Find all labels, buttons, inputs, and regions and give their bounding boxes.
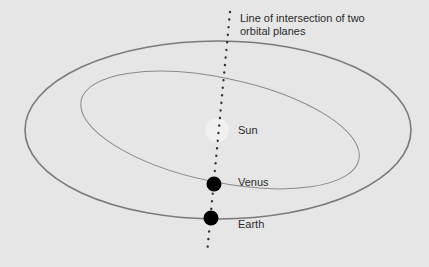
- caption: Line of intersection of two orbital plan…: [240, 12, 365, 38]
- earth-label: Earth: [238, 218, 264, 231]
- venus-icon: [207, 177, 222, 192]
- venus-label: Venus: [238, 176, 269, 189]
- sun-label: Sun: [238, 124, 258, 137]
- sun-icon: [205, 118, 229, 142]
- earth-icon: [204, 211, 219, 226]
- caption-line-1: Line of intersection of two: [240, 12, 365, 25]
- orbit-diagram: [0, 0, 429, 267]
- caption-line-2: orbital planes: [240, 25, 365, 38]
